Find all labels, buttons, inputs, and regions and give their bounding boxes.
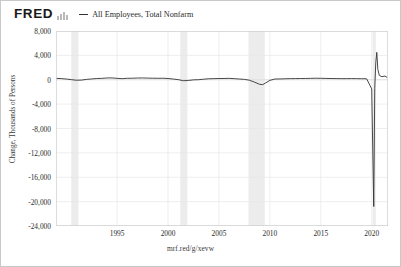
y-axis-tick-labels: 8,0004,0000-4,000-8,000-12,000-16,000-20…	[1, 1, 54, 267]
series-line	[56, 52, 387, 206]
fred-bar-logo-icon	[57, 11, 68, 20]
y-axis-tick-label: 4,000	[34, 51, 51, 60]
chart-legend: All Employees, Total Nonfarm	[79, 10, 193, 19]
y-axis-tick-label: -16,000	[28, 173, 51, 182]
y-axis-tick-label: 8,000	[34, 27, 51, 36]
x-axis-tick-label: 2020	[364, 229, 379, 238]
x-axis-tick-labels: 199520002005201020152020	[1, 229, 401, 243]
y-axis-tick-label: -20,000	[28, 197, 51, 206]
legend-line-swatch	[79, 14, 88, 15]
plot-area	[56, 31, 388, 226]
chart-header: FRED All Employees, Total Nonfarm	[1, 1, 401, 27]
x-axis-tick-label: 1995	[110, 229, 125, 238]
y-axis-tick-label: -8,000	[32, 124, 51, 133]
source-url[interactable]: mrf.red/g/xevw	[1, 244, 401, 253]
y-axis-tick-label: -4,000	[32, 100, 51, 109]
fred-chart-figure: FRED All Employees, Total Nonfarm Change…	[0, 0, 401, 267]
x-axis-tick-label: 2000	[161, 229, 176, 238]
x-axis-tick-label: 2005	[212, 229, 227, 238]
chart-plot-svg	[56, 31, 388, 226]
legend-item-label: All Employees, Total Nonfarm	[92, 10, 193, 19]
x-axis-tick-label: 2010	[262, 229, 277, 238]
x-axis-tick-label: 2015	[313, 229, 328, 238]
y-axis-tick-label: 0	[47, 75, 51, 84]
y-axis-tick-label: -12,000	[28, 148, 51, 157]
